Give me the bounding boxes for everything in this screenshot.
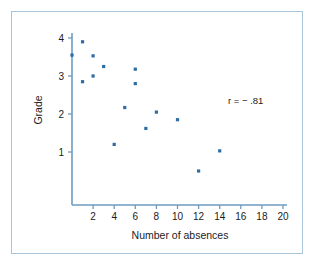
- x-tick-label: 8: [154, 211, 160, 222]
- x-tick-label: 20: [277, 211, 289, 222]
- y-tick-label: 3: [58, 71, 64, 82]
- x-tick-label: 2: [90, 211, 96, 222]
- y-axis: 1234: [58, 33, 72, 206]
- y-tick-label: 4: [58, 33, 64, 44]
- x-tick-label: 4: [111, 211, 117, 222]
- x-tick-label: 6: [133, 211, 139, 222]
- data-point: [70, 54, 73, 57]
- data-point: [102, 65, 105, 68]
- x-axis: 2468101214161820: [72, 205, 289, 222]
- data-points: [70, 40, 221, 172]
- x-tick-label: 16: [235, 211, 247, 222]
- data-point: [92, 74, 95, 77]
- data-point: [113, 143, 116, 146]
- data-point: [144, 127, 147, 130]
- y-axis-label: Grade: [32, 95, 44, 124]
- data-point: [81, 80, 84, 83]
- data-point: [197, 169, 200, 172]
- x-tick-label: 18: [256, 211, 268, 222]
- data-point: [155, 111, 158, 114]
- scatter-plot: 1234 2468101214161820 Number of absences…: [0, 0, 316, 268]
- x-tick-label: 12: [193, 211, 205, 222]
- data-point: [134, 68, 137, 71]
- correlation-annotation: r = − .81: [228, 95, 263, 106]
- x-tick-label: 10: [172, 211, 184, 222]
- y-tick-label: 2: [58, 109, 64, 120]
- data-point: [218, 149, 221, 152]
- y-tick-label: 1: [58, 147, 64, 158]
- data-point: [92, 54, 95, 57]
- data-point: [123, 106, 126, 109]
- data-point: [81, 40, 84, 43]
- x-axis-label: Number of absences: [132, 229, 229, 241]
- x-tick-label: 14: [214, 211, 226, 222]
- data-point: [134, 82, 137, 85]
- data-point: [176, 118, 179, 121]
